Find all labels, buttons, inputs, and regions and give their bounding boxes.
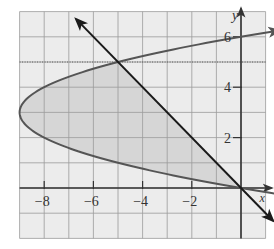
x-tick-label: −8 — [35, 194, 50, 209]
y-tick-label: 6 — [224, 30, 231, 45]
graph: −8−6−4−2246yx — [0, 0, 274, 249]
x-tick-label: −6 — [84, 194, 99, 209]
y-axis-label: y — [230, 8, 239, 23]
y-tick-label: 2 — [224, 131, 231, 146]
x-axis-label: x — [259, 191, 266, 205]
x-tick-label: −2 — [182, 194, 197, 209]
x-tick-label: −4 — [133, 194, 148, 209]
y-tick-label: 4 — [224, 80, 231, 95]
